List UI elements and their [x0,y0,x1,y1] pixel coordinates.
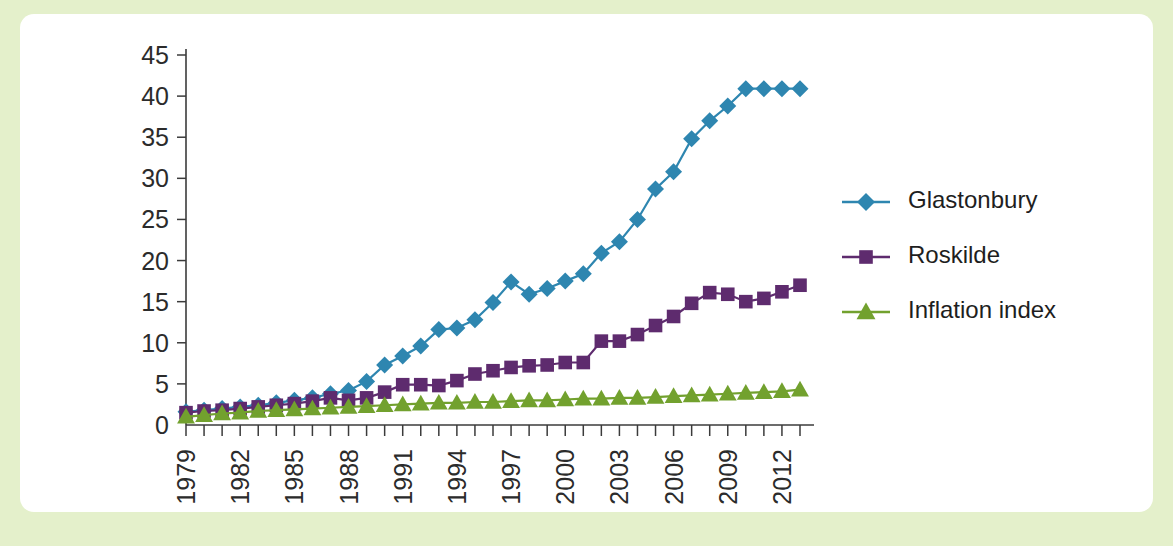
data-point-marker [450,374,464,388]
data-point-marker [557,273,574,290]
data-point-marker [667,310,681,324]
x-axis: 1979198219851988199119941997200020032006… [172,425,814,505]
data-point-marker [649,319,663,333]
data-point-marker [394,347,411,364]
series-layer [177,80,809,423]
chart-legend: GlastonburyRoskildeInflation index [842,186,1056,323]
y-tick-label: 0 [155,411,169,439]
x-tick-label: 2000 [551,449,579,505]
x-tick-label: 1979 [172,449,200,505]
x-tick-label: 2012 [768,449,796,505]
y-tick-label: 20 [141,247,169,275]
x-tick-label: 1985 [280,449,308,505]
data-point-marker [539,280,556,297]
data-point-marker [521,286,538,303]
x-tick-label: 2003 [605,449,633,505]
data-point-marker [613,334,627,348]
x-tick-label: 1982 [226,449,254,505]
line-chart: 051015202530354045 197919821985198819911… [20,14,1153,512]
series-line [186,89,800,412]
data-point-marker [448,319,465,336]
data-point-marker [504,361,518,375]
y-tick-label: 10 [141,329,169,357]
data-point-marker [576,356,590,370]
data-point-marker [793,278,807,292]
data-point-marker [721,287,735,301]
data-point-marker [486,364,500,378]
figure-card: 051015202530354045 197919821985198819911… [20,14,1153,512]
data-point-marker [755,80,772,97]
x-tick-label: 2009 [714,449,742,505]
legend-entry: Glastonbury [842,186,1037,213]
y-tick-label: 30 [141,164,169,192]
data-point-marker [685,297,699,311]
y-tick-label: 25 [141,205,169,233]
data-point-marker [522,359,536,373]
x-tick-label: 1994 [443,449,471,505]
data-point-marker [558,356,572,370]
data-point-marker [540,358,554,372]
x-tick-label: 1997 [497,449,525,505]
y-tick-label: 5 [155,370,169,398]
x-tick-label: 1988 [335,449,363,505]
data-point-marker [414,378,428,392]
y-tick-label: 35 [141,123,169,151]
legend-label: Roskilde [908,241,1000,268]
data-point-marker [791,381,809,397]
data-point-marker [396,378,410,392]
figure-frame: 051015202530354045 197919821985198819911… [0,0,1173,546]
data-point-marker [792,80,809,97]
chart-svg: 051015202530354045 197919821985198819911… [20,14,1153,512]
y-axis: 051015202530354045 [141,41,186,439]
data-point-marker [739,295,753,309]
legend-entry: Roskilde [842,241,1000,268]
legend-label: Glastonbury [908,186,1037,213]
y-tick-label: 45 [141,41,169,69]
data-point-marker [468,367,482,381]
data-point-marker [773,80,790,97]
x-tick-label: 1991 [389,449,417,505]
data-point-marker [857,193,875,211]
x-tick-label: 2006 [660,449,688,505]
data-point-marker [859,250,873,264]
legend-entry: Inflation index [842,296,1056,323]
data-point-marker [757,292,771,306]
data-point-marker [631,328,645,342]
data-point-marker [775,285,789,299]
data-point-marker [703,286,717,300]
data-point-marker [432,379,446,393]
data-point-marker [595,334,609,348]
y-tick-label: 40 [141,82,169,110]
legend-label: Inflation index [908,296,1056,323]
y-tick-label: 15 [141,288,169,316]
